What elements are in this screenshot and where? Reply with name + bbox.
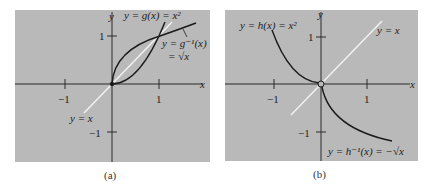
tick-label-y-neg1: −1: [298, 127, 310, 139]
curve-label-h: y = h(x) = x²: [239, 19, 297, 32]
figure: y x −1 1 1 −1 y = g(x) = x² y = g⁻¹(x) =…: [0, 0, 428, 190]
tick-label-y-neg1: −1: [89, 127, 101, 139]
origin-point: [110, 82, 114, 86]
y-axis-label: y: [317, 8, 323, 20]
diagonal-label: y = x: [376, 24, 400, 36]
curve-label-g-inverse-2: = √x: [168, 50, 189, 62]
curve-label-h-inverse: y = h⁻¹(x) = −√x: [327, 145, 404, 158]
diagonal-label: y = x: [69, 112, 93, 124]
tick-label-y-1: 1: [308, 31, 314, 43]
tick-label-x-1: 1: [364, 93, 370, 105]
caption-b: (b): [313, 168, 326, 181]
y-axis-label: y: [108, 10, 114, 22]
tick-label-y-1: 1: [99, 30, 105, 42]
tick-label-x-neg1: −1: [58, 93, 70, 105]
origin-open-point: [318, 81, 324, 87]
panel-a: y x −1 1 1 −1 y = g(x) = x² y = g⁻¹(x) =…: [15, 9, 210, 162]
x-axis-label: x: [199, 78, 205, 90]
tick-label-x-neg1: −1: [267, 93, 279, 105]
curve-label-g: y = g(x) = x²: [123, 9, 181, 22]
tick-label-x-1: 1: [156, 93, 162, 105]
x-axis-label: x: [409, 78, 415, 90]
curve-label-g-inverse-1: y = g⁻¹(x): [161, 37, 207, 50]
panel-b: y x −1 1 1 −1 y = h(x) = x² y = x y = h⁻…: [225, 8, 418, 161]
caption-a: (a): [104, 169, 117, 182]
